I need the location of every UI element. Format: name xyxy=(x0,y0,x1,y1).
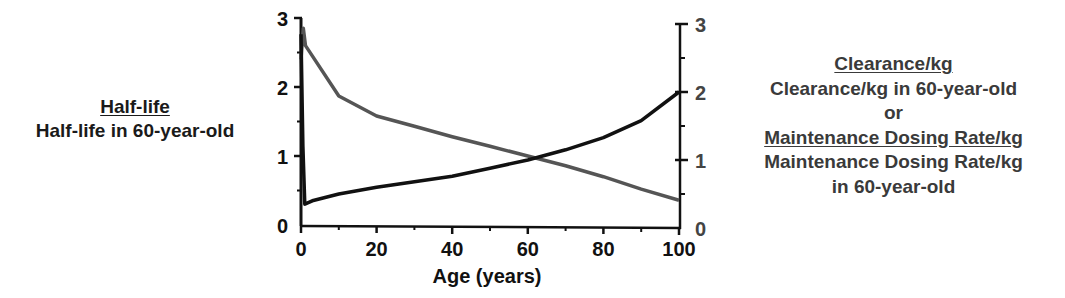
x-tick-100: 100 xyxy=(662,238,695,260)
x-tick-40: 40 xyxy=(441,238,463,260)
y-left-tick-0: 0 xyxy=(277,215,288,237)
x-tick-20: 20 xyxy=(365,238,387,260)
left-y-axis: 3 2 1 0 xyxy=(277,8,302,237)
y-right-tick-1: 1 xyxy=(695,150,706,172)
y-left-tick-3: 3 xyxy=(277,8,288,30)
y-right-tick-0: 0 xyxy=(695,218,706,240)
y-left-tick-1: 1 xyxy=(277,146,288,168)
x-axis-title: Age (years) xyxy=(433,265,542,287)
x-tick-0: 0 xyxy=(295,238,306,260)
x-tick-80: 80 xyxy=(592,238,614,260)
y-right-tick-3: 3 xyxy=(695,14,706,36)
y-right-tick-2: 2 xyxy=(695,82,706,104)
x-axis: 0 20 40 60 80 100 Age (years) xyxy=(295,226,695,287)
y-left-tick-2: 2 xyxy=(277,77,288,99)
line-chart: 3 2 1 0 3 2 1 0 xyxy=(0,0,1065,298)
clearance-line xyxy=(301,34,679,204)
right-y-axis: 3 2 1 0 xyxy=(675,14,706,240)
half-life-line xyxy=(301,28,679,200)
x-tick-60: 60 xyxy=(517,238,539,260)
